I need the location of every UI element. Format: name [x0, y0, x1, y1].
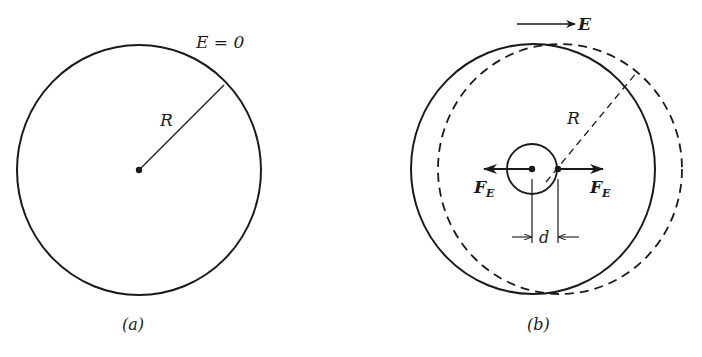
- radius-label-a: R: [159, 110, 173, 130]
- force-label-right: FE: [589, 177, 611, 200]
- panel-b: E R FE FE d (b): [411, 14, 682, 334]
- displacement-label: d: [539, 228, 549, 247]
- radius-line-b: [546, 72, 637, 182]
- panel-a: R E = 0 (a): [17, 32, 261, 334]
- force-label-left: FE: [473, 177, 495, 200]
- diagram-canvas: R E = 0 (a) E R FE FE d (b): [0, 0, 702, 357]
- cloud-center-dot: [555, 166, 561, 172]
- field-label-e: E: [577, 14, 592, 34]
- nucleus-dot-a: [136, 167, 142, 173]
- nucleus-dot-b: [529, 166, 535, 172]
- caption-b: (b): [527, 315, 550, 334]
- field-zero-label: E = 0: [195, 32, 244, 52]
- radius-line-a: [139, 85, 224, 170]
- radius-label-b: R: [566, 108, 580, 128]
- caption-a: (a): [122, 315, 144, 334]
